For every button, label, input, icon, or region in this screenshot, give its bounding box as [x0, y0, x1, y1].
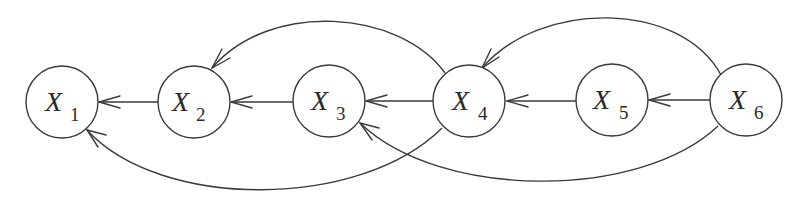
edge-x2-to-x1 — [99, 96, 158, 108]
directed-graph-diagram: X 1 X 2 X 3 X 4 X 5 X 6 — [0, 0, 806, 203]
node-x5: X 5 — [576, 64, 648, 136]
edge-x6-to-x5 — [649, 94, 710, 106]
node-subscript: 1 — [70, 104, 80, 125]
node-subscript: 4 — [478, 103, 488, 124]
edge-x4-to-x1 — [87, 128, 442, 190]
node-x2: X 2 — [158, 66, 230, 138]
node-label: X — [310, 85, 329, 116]
node-subscript: 2 — [196, 104, 206, 125]
edge-x5-to-x4 — [507, 95, 576, 107]
node-label: X — [171, 86, 190, 117]
node-label: X — [44, 86, 63, 117]
node-x3: X 3 — [293, 65, 365, 137]
node-subscript: 3 — [336, 103, 346, 124]
node-subscript: 6 — [754, 102, 764, 123]
node-x4: X 4 — [433, 65, 505, 137]
node-label: X — [728, 84, 747, 115]
edge-x6-to-x3 — [360, 123, 718, 181]
node-subscript: 5 — [619, 102, 629, 123]
node-x1: X 1 — [26, 66, 98, 138]
edge-x3-to-x2 — [231, 96, 293, 108]
node-label: X — [592, 84, 611, 115]
node-label: X — [451, 85, 470, 116]
node-x6: X 6 — [710, 64, 782, 136]
edge-x4-to-x3 — [366, 95, 433, 107]
